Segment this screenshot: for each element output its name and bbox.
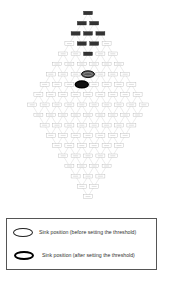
legend-label-before: Sink position (before setting the thresh… bbox=[39, 229, 136, 235]
dark-node bbox=[84, 11, 93, 15]
legend: Sink position (before setting the thresh… bbox=[6, 218, 157, 270]
legend-label-after: Sink position (after setting the thresho… bbox=[42, 252, 135, 258]
dark-node bbox=[90, 21, 99, 25]
network-diagram bbox=[0, 0, 171, 210]
dark-node bbox=[77, 21, 86, 25]
thin-ellipse-icon bbox=[13, 228, 33, 237]
nodes bbox=[28, 11, 149, 198]
dark-node bbox=[71, 32, 80, 36]
thick-ellipse-icon bbox=[14, 251, 34, 260]
dark-node bbox=[90, 42, 99, 46]
legend-item-before: Sink position (before setting the thresh… bbox=[7, 225, 136, 239]
dark-node bbox=[84, 52, 93, 56]
legend-item-after: Sink position (after setting the thresho… bbox=[7, 248, 135, 262]
dark-node bbox=[77, 42, 86, 46]
sink-after-node bbox=[75, 81, 88, 88]
dark-node bbox=[84, 32, 93, 36]
dark-node bbox=[96, 32, 105, 36]
